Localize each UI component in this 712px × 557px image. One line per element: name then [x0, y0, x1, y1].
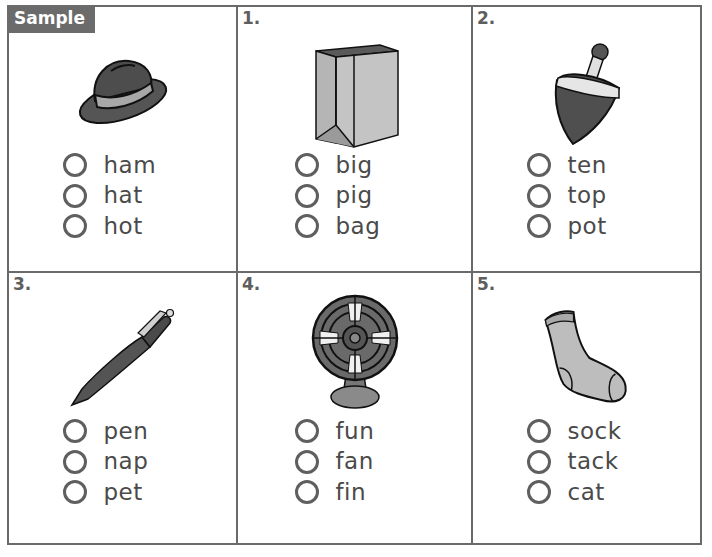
answer-bubble[interactable]	[527, 450, 551, 474]
answer-bubble[interactable]	[295, 480, 319, 504]
answer-options: fun fan fin	[295, 416, 415, 508]
option-row[interactable]: cat	[527, 477, 647, 508]
item-number: 5.	[477, 274, 495, 294]
option-word: big	[336, 154, 373, 177]
option-row[interactable]: sock	[527, 416, 647, 447]
option-row[interactable]: pet	[63, 477, 183, 508]
answer-bubble[interactable]	[63, 480, 87, 504]
option-word: hat	[104, 184, 143, 207]
answer-bubble[interactable]	[295, 419, 319, 443]
answer-options: ten top pot	[527, 150, 647, 242]
option-word: hot	[104, 215, 143, 238]
answer-bubble[interactable]	[527, 214, 551, 238]
item-3: 3. pen nap pet	[9, 273, 238, 543]
option-word: nap	[104, 450, 149, 473]
option-row[interactable]: hat	[63, 181, 183, 212]
option-row[interactable]: pen	[63, 416, 183, 447]
answer-bubble[interactable]	[63, 153, 87, 177]
option-word: pet	[104, 481, 143, 504]
item-4: 4. fun fan fin	[238, 273, 473, 543]
option-word: fun	[336, 420, 375, 443]
answer-bubble[interactable]	[295, 153, 319, 177]
option-row[interactable]: pig	[295, 181, 415, 212]
option-word: pen	[104, 420, 149, 443]
answer-bubble[interactable]	[527, 184, 551, 208]
worksheet-grid: Sample ham hat hot 1. big pig bag	[7, 5, 702, 545]
option-row[interactable]: fun	[295, 416, 415, 447]
item-number: 2.	[477, 8, 495, 28]
option-row[interactable]: big	[295, 150, 415, 181]
option-row[interactable]: fin	[295, 477, 415, 508]
item-number: 4.	[242, 274, 260, 294]
option-word: sock	[568, 420, 622, 443]
option-word: ham	[104, 154, 157, 177]
option-row[interactable]: tack	[527, 447, 647, 478]
fan-icon	[310, 293, 400, 413]
answer-bubble[interactable]	[527, 153, 551, 177]
answer-bubble[interactable]	[295, 450, 319, 474]
option-row[interactable]: bag	[295, 211, 415, 242]
option-row[interactable]: ten	[527, 150, 647, 181]
option-word: fin	[336, 481, 367, 504]
option-row[interactable]: hot	[63, 211, 183, 242]
option-row[interactable]: top	[527, 181, 647, 212]
option-word: tack	[568, 450, 619, 473]
answer-options: ham hat hot	[63, 150, 183, 242]
option-word: pot	[568, 215, 607, 238]
option-word: fan	[336, 450, 374, 473]
hat-icon	[73, 49, 173, 129]
option-row[interactable]: ham	[63, 150, 183, 181]
answer-bubble[interactable]	[63, 450, 87, 474]
answer-bubble[interactable]	[295, 184, 319, 208]
answer-bubble[interactable]	[63, 214, 87, 238]
option-word: pig	[336, 184, 373, 207]
item-1: 1. big pig bag	[238, 7, 473, 273]
option-row[interactable]: fan	[295, 447, 415, 478]
option-row[interactable]: nap	[63, 447, 183, 478]
item-sample: Sample ham hat hot	[9, 7, 238, 273]
item-2: 2. ten top pot	[473, 7, 700, 273]
option-row[interactable]: pot	[527, 211, 647, 242]
answer-bubble[interactable]	[295, 214, 319, 238]
item-number: 1.	[242, 8, 260, 28]
answer-bubble[interactable]	[63, 419, 87, 443]
item-number: 3.	[13, 274, 31, 294]
paper-bag-icon	[310, 39, 400, 149]
answer-bubble[interactable]	[63, 184, 87, 208]
sample-label: Sample	[7, 5, 95, 33]
option-word: ten	[568, 154, 607, 177]
answer-options: pen nap pet	[63, 416, 183, 508]
option-word: cat	[568, 481, 605, 504]
pen-icon	[68, 303, 178, 408]
answer-bubble[interactable]	[527, 419, 551, 443]
spinning-top-icon	[547, 40, 627, 145]
answer-options: sock tack cat	[527, 416, 647, 508]
answer-options: big pig bag	[295, 150, 415, 242]
item-5: 5. sock tack cat	[473, 273, 700, 543]
sock-icon	[539, 306, 634, 406]
option-word: bag	[336, 215, 381, 238]
option-word: top	[568, 184, 607, 207]
answer-bubble[interactable]	[527, 480, 551, 504]
